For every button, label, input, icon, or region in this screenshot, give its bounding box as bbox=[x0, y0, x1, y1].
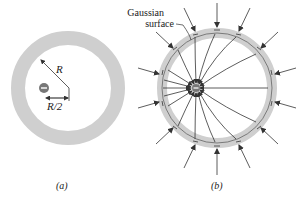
diagram-canvas: R R/2 (a) bbox=[0, 0, 307, 197]
panel-a: R R/2 (a) bbox=[18, 38, 118, 192]
panel-b: Gaussian surface (b) bbox=[127, 3, 296, 192]
minus-icon bbox=[194, 87, 199, 88]
offset-label: R/2 bbox=[46, 100, 63, 112]
radius-label: R bbox=[55, 63, 63, 75]
minus-icon bbox=[41, 87, 47, 88]
gaussian-label-line1: Gaussian bbox=[127, 7, 164, 18]
caption-b: (b) bbox=[211, 180, 223, 192]
caption-a: (a) bbox=[56, 180, 68, 192]
gaussian-label-line2: surface bbox=[145, 18, 174, 29]
conducting-shell bbox=[18, 38, 118, 138]
